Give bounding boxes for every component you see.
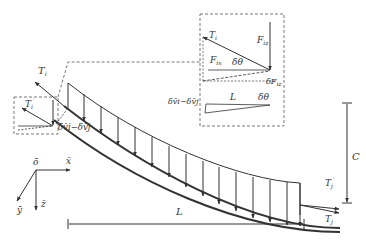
inset-slope-triangle <box>205 104 270 113</box>
label-c: C <box>352 151 360 162</box>
label-tj-prime: Tj′ <box>325 176 335 190</box>
distributed-load-arrows <box>84 94 300 226</box>
label-tj: Tj <box>325 214 333 226</box>
inset-label-fix: Fix <box>209 55 222 66</box>
inset-label-dtheta-small: δθ <box>258 92 269 102</box>
tension-tj-prime-arrow <box>300 205 339 209</box>
inset-label-l: L <box>229 92 236 102</box>
label-ti: Ti <box>38 65 47 77</box>
label-ti-prime: Ti′ <box>25 97 35 110</box>
diagram-canvas: Ti Ti′ δv̄i−δv̄j Ti Fiz Fix δθ δFiz L δθ… <box>0 0 366 241</box>
inset-label-dtheta: δθ <box>232 57 243 67</box>
inset-label-ti: Ti <box>209 30 217 41</box>
label-l: L <box>175 206 183 217</box>
label-delta-v-main: δv̄i−δv̄j <box>58 122 91 132</box>
inset-dashed-angled <box>203 71 270 81</box>
inset-label-dfiz: δFiz <box>266 77 282 87</box>
axis-z-label: z̄ <box>40 199 46 209</box>
inset-label-fiz: Fiz <box>256 35 269 46</box>
axis-origin-label: ō <box>33 157 39 167</box>
left-inset-box <box>14 97 58 134</box>
tension-ti-arrow <box>35 82 64 106</box>
left-dashed-line <box>18 126 52 130</box>
tension-tj-arrow <box>300 205 339 213</box>
inset-label-delta-v: δv̄i−δv̄j <box>168 97 199 106</box>
axis-y-label: ȳ <box>16 205 23 215</box>
left-ti-prime-arrow <box>22 108 53 126</box>
axis-x-label: x̄ <box>66 156 71 166</box>
cable-body <box>54 106 340 232</box>
